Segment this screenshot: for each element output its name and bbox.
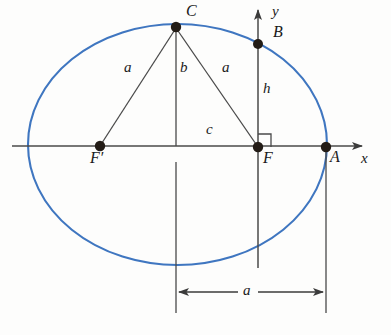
diagram-canvas [0,0,391,335]
label-point-c: C [186,3,197,19]
label-point-f-prime: F′ [90,150,103,166]
label-segment-a-left: a [124,60,132,75]
label-dimension-a: a [243,283,251,298]
segment-a-right [176,28,258,147]
label-axis-y: y [272,4,279,19]
segment-a-left [100,28,176,146]
geometry-figure: C B y a b a h c F′ F A x a [0,0,391,335]
point-marker-F [253,142,263,152]
ellipse-curve [28,24,327,265]
point-marker-B [253,39,263,49]
label-segment-c: c [206,122,213,137]
label-point-a: A [330,149,340,165]
label-point-f: F [263,150,273,166]
label-segment-h: h [263,81,271,96]
label-segment-b: b [180,60,188,75]
label-point-b: B [273,24,283,40]
point-marker-C [171,22,181,32]
label-axis-x: x [361,151,368,166]
label-segment-a-right: a [222,60,230,75]
